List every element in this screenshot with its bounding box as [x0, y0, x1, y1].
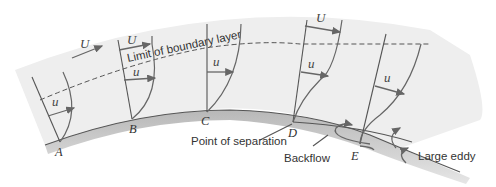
large-eddy-label: Large eddy — [418, 150, 476, 162]
svg-text:E: E — [350, 149, 359, 163]
free-stream-U: U — [80, 36, 91, 51]
svg-text:U: U — [127, 32, 138, 47]
svg-text:A: A — [54, 145, 63, 159]
boundary-layer-diagram: Limit of boundary layer U u A U u B u C … — [0, 0, 496, 187]
svg-text:D: D — [287, 126, 297, 140]
separation-label: Point of separation — [191, 135, 287, 147]
svg-text:B: B — [129, 122, 137, 136]
svg-text:U: U — [316, 10, 327, 25]
svg-text:u: u — [52, 94, 59, 109]
svg-text:C: C — [201, 114, 210, 128]
svg-text:u: u — [384, 70, 391, 85]
svg-text:u: u — [308, 56, 315, 71]
backflow-label: Backflow — [284, 152, 331, 164]
svg-text:u: u — [133, 64, 140, 79]
svg-text:u: u — [213, 54, 220, 69]
backflow-leader — [313, 135, 328, 146]
